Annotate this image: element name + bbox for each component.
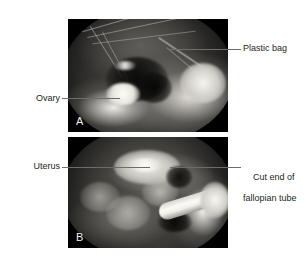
label-uterus: Uterus (10, 161, 60, 172)
leader-line-uterus (62, 167, 150, 168)
panel-letter-b: B (76, 231, 84, 243)
specular-highlight (200, 182, 228, 218)
ovary-tissue-highlight (106, 83, 140, 105)
panel-a-image: A (68, 19, 228, 132)
label-cut-end-line-2: fallopian tube (243, 193, 297, 204)
tissue-lobe (106, 196, 150, 230)
specular-highlight (180, 63, 226, 103)
specular-highlight (128, 158, 162, 172)
leader-line-cut-end (170, 167, 241, 168)
dark-tissue-mass (136, 73, 172, 103)
suture-region (166, 166, 192, 188)
label-ovary: Ovary (14, 93, 60, 104)
label-cut-end-of-fallopian-tube: Cut end of fallopian tube (243, 161, 297, 224)
label-plastic-bag: Plastic bag (243, 43, 287, 54)
panel-letter-a: A (76, 115, 84, 127)
label-cut-end-line-1: Cut end of (253, 172, 295, 182)
specular-highlight (114, 61, 136, 70)
panel-b-image: B (68, 137, 228, 248)
endoscopic-field-b (68, 137, 228, 248)
leader-line-ovary (62, 98, 120, 99)
endoscopic-field-a (68, 19, 228, 132)
leader-line-plastic-bag (170, 49, 241, 50)
figure-root: A B Plastic bag Ovary Uterus Cut end (0, 0, 306, 261)
